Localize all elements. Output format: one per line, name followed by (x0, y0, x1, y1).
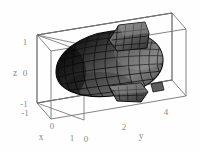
z-tick-0: 0 (23, 68, 28, 78)
plot-container: 1 0 -1 -1 0 1 0 2 4 z x y (0, 0, 200, 152)
x-tick-0: 0 (50, 121, 55, 131)
tail-nub (151, 82, 164, 92)
x-axis-label: x (39, 132, 44, 142)
y-tick-2: 2 (122, 122, 127, 132)
x-tick-1: 1 (70, 133, 75, 143)
y-tick-0: 0 (84, 134, 89, 144)
y-axis-label: y (139, 131, 144, 141)
z-axis-label: z (13, 68, 17, 78)
z-tick-1: 1 (23, 37, 28, 47)
ventral-fin (109, 83, 148, 102)
surface-plot-svg: 1 0 -1 -1 0 1 0 2 4 z x y (0, 0, 200, 152)
x-tick-neg1: -1 (21, 108, 29, 118)
dorsal-fin (109, 22, 149, 51)
y-tick-4: 4 (164, 107, 169, 117)
